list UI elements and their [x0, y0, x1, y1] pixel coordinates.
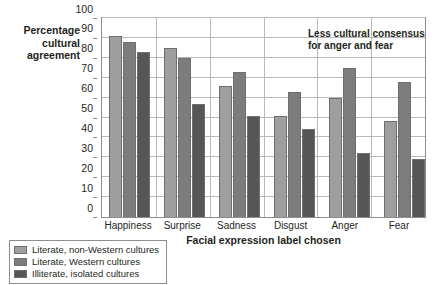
x-tick-label: Fear	[372, 220, 426, 232]
y-tick-label: 100	[75, 3, 93, 14]
y-tick-label: 50	[81, 103, 93, 114]
bar	[123, 42, 136, 217]
y-tick-label: 60	[81, 83, 93, 94]
y-tick-label: 90	[81, 23, 93, 34]
bar	[302, 129, 315, 217]
bar	[343, 68, 356, 217]
legend-swatch	[14, 246, 27, 254]
x-tick-label: Surprise	[155, 220, 209, 232]
bar-group	[102, 18, 157, 217]
y-tick-mark	[93, 197, 97, 198]
legend-item: Illiterate, isolated cultures	[14, 268, 162, 280]
y-tick-label: 80	[81, 43, 93, 54]
legend-item: Literate, non-Western cultures	[14, 244, 162, 256]
bar	[329, 98, 342, 217]
chart-legend: Literate, non-Western culturesLiterate, …	[9, 240, 167, 284]
bar	[247, 116, 260, 217]
y-tick-label: 10	[81, 182, 93, 193]
y-tick-mark	[93, 38, 97, 39]
annotation-line-1: Less cultural consensus	[308, 28, 425, 39]
bar	[412, 159, 425, 217]
y-tick-mark	[93, 137, 97, 138]
y-tick-label: 0	[87, 202, 93, 213]
legend-label: Literate, Western cultures	[32, 257, 140, 267]
bar-group	[212, 18, 267, 217]
bar	[288, 92, 301, 217]
bar	[384, 121, 397, 217]
bar	[137, 52, 150, 217]
y-tick-mark	[93, 177, 97, 178]
legend-swatch	[14, 270, 27, 278]
bar	[233, 72, 246, 217]
bar	[274, 116, 287, 217]
x-tick-label: Anger	[318, 220, 372, 232]
y-tick-label: 40	[81, 123, 93, 134]
y-tick-mark	[93, 217, 97, 218]
y-tick-label: 70	[81, 63, 93, 74]
y-tick-label: 20	[81, 162, 93, 173]
y-tick-mark	[93, 18, 97, 19]
x-tick-label: Happiness	[101, 220, 155, 232]
annotation-line-2: for anger and fear	[308, 40, 393, 51]
y-axis-tick-labels: 0102030405060708090100	[60, 17, 97, 218]
bar	[219, 86, 232, 217]
bar	[398, 82, 411, 217]
bar	[357, 153, 370, 217]
y-tick-mark	[93, 58, 97, 59]
legend-label: Illiterate, isolated cultures	[32, 269, 139, 279]
legend-label: Literate, non-Western cultures	[32, 245, 159, 255]
bar	[178, 58, 191, 217]
y-tick-mark	[93, 78, 97, 79]
bar	[192, 104, 205, 217]
bar	[109, 36, 122, 217]
bar-group	[157, 18, 212, 217]
y-tick-mark	[93, 157, 97, 158]
legend-item: Literate, Western cultures	[14, 256, 162, 268]
chart-plot-area: Less cultural consensus for anger and fe…	[101, 17, 426, 218]
x-tick-label: Disgust	[264, 220, 318, 232]
bar	[164, 48, 177, 217]
legend-swatch	[14, 258, 27, 266]
x-axis-tick-labels: HappinessSurpriseSadnessDisgustAngerFear	[101, 220, 426, 232]
y-tick-mark	[93, 98, 97, 99]
x-tick-label: Sadness	[209, 220, 263, 232]
y-tick-label: 30	[81, 143, 93, 154]
y-tick-mark	[93, 118, 97, 119]
chart-annotation: Less cultural consensus for anger and fe…	[308, 28, 430, 52]
